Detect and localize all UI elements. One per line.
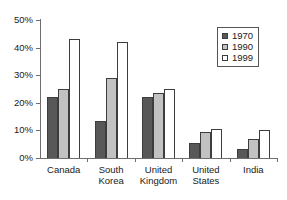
y-tick-label: 30%: [14, 70, 33, 80]
bar-group: [135, 20, 182, 158]
category-label-united-states: United States: [192, 164, 219, 186]
y-tick-label: 10%: [14, 126, 33, 136]
category-label-united-kingdom: United Kingdom: [140, 164, 178, 186]
bar-1990-united-states: [200, 132, 211, 158]
legend-swatch-icon-1990: [222, 44, 228, 50]
bar-1999-canada: [69, 39, 80, 158]
legend-swatch-icon-1970: [222, 33, 228, 39]
y-tick: [36, 158, 40, 159]
x-axis-line: [40, 158, 278, 159]
y-tick-label: 20%: [14, 98, 33, 108]
bar-1990-canada: [58, 89, 69, 158]
legend: 197019901999: [217, 27, 259, 67]
bar-chart: 0%10%20%30%40%50% CanadaSouth KoreaUnite…: [0, 0, 287, 200]
bar-1970-united-kingdom: [142, 97, 153, 158]
legend-label: 1970: [232, 31, 253, 41]
bar-1970-canada: [47, 97, 58, 158]
bar-group: [40, 20, 87, 158]
bar-1970-united-states: [189, 143, 200, 158]
bar-1990-united-kingdom: [153, 93, 164, 158]
y-tick-label: 0%: [19, 153, 33, 163]
bar-1999-united-kingdom: [164, 89, 175, 158]
bar-1999-south-korea: [117, 42, 128, 158]
x-tick: [230, 158, 231, 162]
x-tick: [135, 158, 136, 162]
bar-1999-united-states: [211, 129, 222, 158]
legend-label: 1999: [232, 53, 253, 63]
y-tick-label: 40%: [14, 43, 33, 53]
x-tick: [182, 158, 183, 162]
bar-1970-india: [237, 149, 248, 158]
bar-1990-india: [248, 139, 259, 158]
legend-item-1990: 1990: [222, 41, 253, 52]
x-tick: [277, 158, 278, 162]
x-tick: [87, 158, 88, 162]
bar-1990-south-korea: [106, 78, 117, 158]
bar-1970-south-korea: [95, 121, 106, 158]
bar-group: [87, 20, 134, 158]
legend-item-1970: 1970: [222, 30, 253, 41]
category-label-canada: Canada: [47, 164, 80, 175]
category-label-india: India: [243, 164, 264, 175]
legend-item-1999: 1999: [222, 52, 253, 63]
legend-label: 1990: [232, 42, 253, 52]
legend-swatch-icon-1999: [222, 55, 228, 61]
y-tick-label: 50%: [14, 15, 33, 25]
bar-1999-india: [259, 130, 270, 158]
category-label-south-korea: South Korea: [98, 164, 123, 186]
